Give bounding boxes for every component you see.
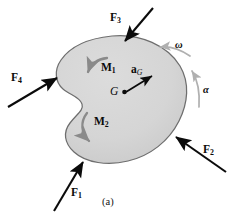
mass-center-label-g: G — [110, 86, 118, 98]
force-subscript-f1: 1 — [78, 191, 82, 200]
figure-caption: (a) — [102, 197, 114, 208]
force-subscript-f3: 3 — [117, 16, 121, 25]
mechanics-figure: F3 F4 F2 F1 M1 M2 aG G ω α (a) — [0, 0, 235, 221]
force-subscript-f4: 4 — [18, 76, 22, 85]
force-arrow-f2 — [176, 137, 226, 172]
rigid-body-shape — [56, 36, 186, 164]
figure-canvas — [0, 0, 235, 221]
force-arrow-f3 — [125, 8, 153, 41]
moment-label-m2: M2 — [94, 116, 109, 128]
force-subscript-f2: 2 — [210, 148, 214, 157]
moment-label-m1: M1 — [101, 62, 116, 74]
acceleration-subscript-g: G — [137, 68, 143, 77]
moment-subscript-m1: 1 — [112, 66, 116, 75]
mass-center-point — [122, 90, 127, 95]
force-label-f1: F1 — [71, 187, 82, 199]
angular-velocity-label-omega: ω — [175, 40, 183, 51]
acceleration-label-ag: aG — [131, 64, 142, 76]
angular-acceleration-arrow — [192, 71, 199, 107]
force-label-f2: F2 — [203, 144, 214, 156]
force-label-f3: F3 — [110, 12, 121, 24]
moment-subscript-m2: 2 — [105, 120, 109, 129]
angular-acceleration-label-alpha: α — [203, 85, 209, 96]
force-label-f4: F4 — [11, 72, 22, 84]
